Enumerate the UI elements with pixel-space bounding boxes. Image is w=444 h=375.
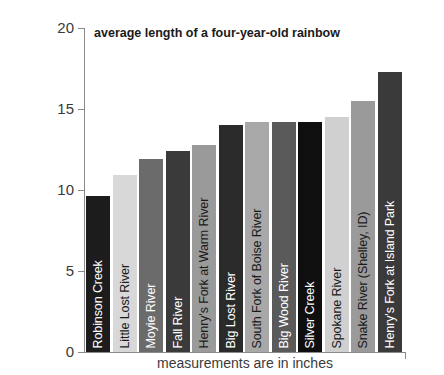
bar-label: Henry's Fork at Warm River xyxy=(198,197,211,348)
bar-label: Fall River xyxy=(171,296,184,348)
x-axis-line xyxy=(84,352,406,353)
y-axis-tick-label: 0 xyxy=(40,344,74,359)
y-axis-tick xyxy=(78,352,85,353)
bar: Robinson Creek xyxy=(86,196,110,352)
bar-label: Robinson Creek xyxy=(92,260,105,348)
bar-chart: average length of a four-year-old rainbo… xyxy=(0,0,444,375)
bar-label: Spokane River xyxy=(330,267,343,348)
y-axis-tick-label: 15 xyxy=(40,101,74,116)
y-axis-tick xyxy=(78,190,85,191)
y-axis-tick xyxy=(78,109,85,110)
bar-label: Silver Creek xyxy=(304,281,317,348)
bar-label: Snake River (Shelley, ID) xyxy=(357,211,370,348)
bar: Little Lost River xyxy=(113,175,137,352)
bar-label: Big Wood River xyxy=(277,263,290,348)
bar-label: Henry's Fork at Island Park xyxy=(383,200,396,348)
bar: Big Wood River xyxy=(272,122,296,352)
y-axis-tick-label: 5 xyxy=(40,263,74,278)
bar-label: Little Lost River xyxy=(118,264,131,348)
plot-area: Robinson CreekLittle Lost RiverMoyie Riv… xyxy=(86,28,404,352)
bar: Fall River xyxy=(166,151,190,352)
y-axis-tick xyxy=(78,271,85,272)
y-axis-tick xyxy=(78,28,85,29)
bar: Moyie River xyxy=(139,159,163,352)
y-axis-tick-label: 10 xyxy=(40,182,74,197)
bar: Spokane River xyxy=(325,117,349,352)
y-axis-tick-labels: 05101520 xyxy=(34,0,74,375)
bar-label: Moyie River xyxy=(145,283,158,348)
bar: Snake River (Shelley, ID) xyxy=(351,101,375,352)
y-axis-tick-label: 20 xyxy=(40,20,74,35)
bar: Henry's Fork at Warm River xyxy=(192,145,216,352)
bar-label: Big Lost River xyxy=(224,272,237,348)
bar: South Fork of Boise River xyxy=(245,122,269,352)
bar: Henry's Fork at Island Park xyxy=(378,72,402,352)
x-axis-title: measurements are in inches xyxy=(84,355,406,371)
bar: Big Lost River xyxy=(219,125,243,352)
bar-label: South Fork of Boise River xyxy=(251,208,264,348)
bar: Silver Creek xyxy=(298,122,322,352)
